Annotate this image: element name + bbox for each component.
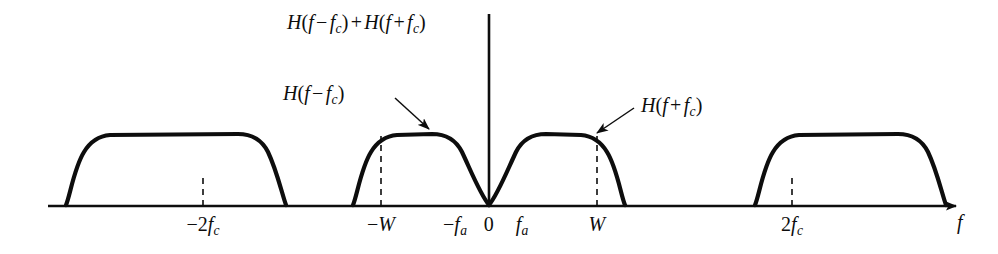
right-lobe-annotation: H(f+fc) xyxy=(641,95,702,118)
x-axis-label: f xyxy=(957,212,963,232)
tick-minus-2fc-subscript: c xyxy=(214,223,220,238)
tick-fa-symbol: f xyxy=(516,213,522,235)
tick-label-W: W xyxy=(577,214,617,237)
left-annotation-close-paren: ) xyxy=(338,82,345,104)
tick-minus-fa-subscript: a xyxy=(460,223,467,238)
title-close-paren-2: ) xyxy=(419,11,426,33)
right-annotation-operator: + xyxy=(670,94,681,116)
tick-label-minus-2fc: −2fc xyxy=(173,214,233,237)
lobe-inner-right xyxy=(489,134,625,205)
tick-2fc-lead: 2 xyxy=(781,213,791,235)
left-annotation-h: H xyxy=(283,82,297,104)
title-f1: f xyxy=(308,11,314,33)
tick-label-2fc: 2fc xyxy=(764,214,820,237)
right-annotation-fc: f xyxy=(684,94,690,116)
left-annotation-leader-line xyxy=(395,98,429,129)
tick-minus-W-symbol: W xyxy=(378,213,395,235)
tick-minus-fa-lead: − xyxy=(443,213,454,235)
title-plus-operator-2: + xyxy=(393,11,404,33)
tick-minus-W-lead: − xyxy=(367,213,378,235)
right-annotation-leader-line xyxy=(597,108,634,133)
spectrum-figure: H(f−fc)+H(f+fc) H(f−fc) H(f+fc) −2fc −W … xyxy=(0,0,998,254)
title-fc1: f xyxy=(330,11,336,33)
title-f2: f xyxy=(385,11,391,33)
right-annotation-h: H xyxy=(641,94,655,116)
tick-label-fa: fa xyxy=(500,214,544,237)
title-close-paren-1: ) xyxy=(342,11,349,33)
title-h2: H xyxy=(364,11,378,33)
tick-label-minus-W: −W xyxy=(353,214,409,237)
right-annotation-f: f xyxy=(662,94,668,116)
right-annotation-close-paren: ) xyxy=(696,94,703,116)
tick-W-symbol: W xyxy=(589,213,606,235)
tick-minus-2fc-symbol: f xyxy=(208,213,214,235)
title-fc2: f xyxy=(407,11,413,33)
tick-2fc-subscript: c xyxy=(797,223,803,238)
tick-2fc-symbol: f xyxy=(791,213,797,235)
left-lobe-annotation: H(f−fc) xyxy=(283,83,344,106)
lobe-left-outer xyxy=(66,134,286,205)
lobe-inner-left xyxy=(353,134,489,205)
tick-fa-subscript: a xyxy=(522,223,529,238)
title-expression: H(f−fc)+H(f+fc) xyxy=(287,12,426,35)
left-annotation-operator: − xyxy=(312,82,323,104)
left-annotation-fc: f xyxy=(326,82,332,104)
title-minus-operator: − xyxy=(316,11,327,33)
title-h1: H xyxy=(287,11,301,33)
tick-zero-symbol: 0 xyxy=(484,213,494,235)
tick-minus-2fc-lead: −2 xyxy=(186,213,207,235)
title-plus-operator: + xyxy=(351,11,362,33)
lobe-right-outer xyxy=(755,134,946,205)
left-annotation-f: f xyxy=(304,82,310,104)
